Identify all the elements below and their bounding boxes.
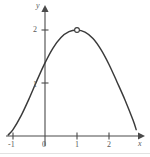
x-axis-label: x (138, 140, 142, 148)
curve-path (8, 30, 136, 135)
x-tick-label-1: 1 (75, 141, 79, 149)
y-tick-label-1: 1 (33, 81, 37, 89)
y-axis-arrow-icon (41, 5, 48, 12)
x-tick-label--1: -1 (8, 141, 15, 149)
vertex-open-circle-marker (75, 28, 80, 33)
y-axis-label: y (36, 2, 40, 10)
plot-canvas (0, 0, 150, 157)
bottom-divider (0, 153, 150, 154)
x-tick-label-2: 2 (107, 141, 111, 149)
graph-figure: -1 0 1 2 1 2 x y (0, 0, 150, 157)
y-tick-label-2: 2 (33, 26, 37, 34)
x-tick-label-0: 0 (42, 141, 46, 149)
